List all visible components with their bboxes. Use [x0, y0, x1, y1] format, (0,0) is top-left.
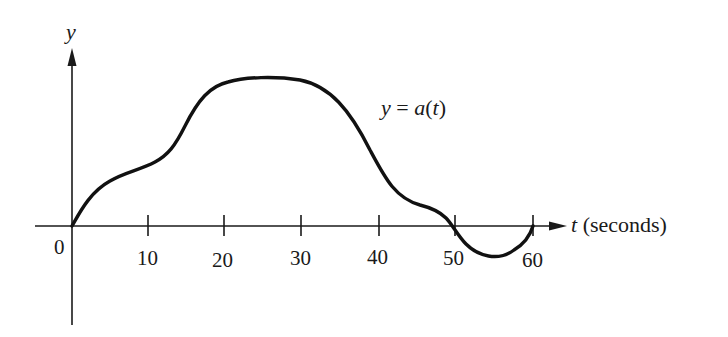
x-axis-unit: (seconds) — [577, 212, 667, 237]
tick-label-60: 60 — [522, 248, 543, 272]
curve-label: y = a(t) — [379, 95, 446, 120]
x-axis-arrow-icon — [549, 222, 567, 231]
curve-label-lhs: y — [379, 95, 391, 120]
tick-label-40: 40 — [367, 245, 388, 269]
curve-label-close: ) — [439, 95, 446, 120]
tick-label-20: 20 — [212, 248, 233, 272]
origin-label: 0 — [54, 235, 65, 259]
tick-label-50: 50 — [443, 246, 464, 270]
tick-label-30: 30 — [290, 246, 311, 270]
chart-canvas: y 0 10 20 30 40 50 60 t (seconds) y = a(… — [0, 0, 728, 337]
curve-label-eq: = — [391, 95, 414, 120]
y-axis-label: y — [64, 19, 76, 44]
x-axis-label: t (seconds) — [571, 212, 667, 237]
curve-label-open: ( — [425, 95, 432, 120]
tick-label-10: 10 — [137, 246, 158, 270]
curve-label-fn: a — [414, 95, 425, 120]
y-axis-arrow-icon — [68, 48, 77, 66]
curve-a-of-t — [72, 78, 533, 257]
